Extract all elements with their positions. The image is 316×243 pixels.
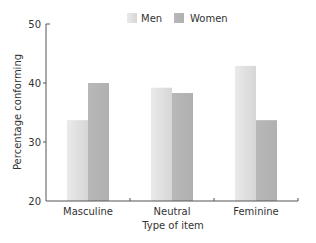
legend-swatch-men — [127, 13, 137, 23]
y-ticks-group: 20304050 — [28, 19, 46, 207]
legend-label-men: Men — [141, 13, 162, 24]
x-tick-label-neutral: Neutral — [154, 206, 191, 217]
bar-men-neutral — [151, 88, 172, 201]
y-tick-label: 40 — [28, 78, 41, 89]
legend-label-women: Women — [190, 13, 228, 24]
y-axis-title: Percentage conforming — [12, 54, 23, 170]
bar-men-masculine — [67, 120, 88, 201]
y-tick-label: 30 — [28, 137, 41, 148]
x-axis-title: Type of item — [141, 220, 204, 231]
x-tick-label-feminine: Feminine — [233, 206, 278, 217]
y-tick-label: 20 — [28, 196, 41, 207]
x-tick-label-masculine: Masculine — [63, 206, 113, 217]
legend: Men Women — [127, 13, 228, 24]
bar-chart: 20304050 MasculineNeutralFeminine Percen… — [0, 0, 316, 243]
bar-women-masculine — [88, 83, 109, 201]
bars-group — [67, 66, 277, 201]
bar-women-neutral — [172, 93, 193, 201]
bar-men-feminine — [235, 66, 256, 201]
y-axis-line — [46, 24, 50, 201]
y-tick-label: 50 — [28, 19, 41, 30]
bar-women-feminine — [256, 120, 277, 201]
legend-swatch-women — [174, 13, 184, 23]
